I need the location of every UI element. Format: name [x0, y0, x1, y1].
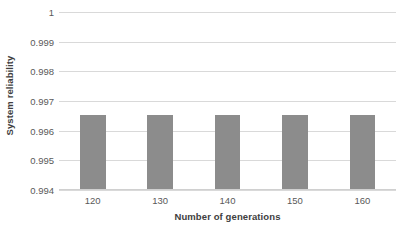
bar-slot [261, 12, 328, 190]
bar-chart: System reliability 10.9990.9980.9970.996… [0, 0, 410, 243]
x-axis-tick-label: 130 [126, 192, 193, 210]
x-axis-title: Number of generations [59, 211, 396, 222]
y-axis-title: System reliability [0, 0, 20, 190]
bar-series [59, 12, 396, 190]
y-axis-tick-labels: 10.9990.9980.9970.9960.9950.994 [20, 0, 57, 190]
y-axis-tick-label: 0.999 [30, 36, 54, 47]
bar-slot [59, 12, 126, 190]
x-axis-tick-label: 140 [194, 192, 261, 210]
bar[interactable] [350, 115, 376, 190]
bar[interactable] [215, 115, 241, 190]
bar[interactable] [80, 115, 106, 190]
y-axis-tick-label: 0.995 [30, 155, 54, 166]
y-axis-title-text: System reliability [5, 55, 16, 135]
x-axis-tick-label: 120 [59, 192, 126, 210]
bar-slot [126, 12, 193, 190]
bar[interactable] [282, 115, 308, 190]
bar[interactable] [147, 115, 173, 190]
bar-slot [329, 12, 396, 190]
bar-slot [194, 12, 261, 190]
y-axis-tick-label: 0.998 [30, 66, 54, 77]
y-axis-tick-label: 1 [49, 7, 54, 18]
y-axis-tick-label: 0.994 [30, 185, 54, 196]
x-axis-tick-label: 150 [261, 192, 328, 210]
gridline [59, 190, 396, 191]
x-axis-line [59, 189, 396, 190]
y-axis-tick-label: 0.997 [30, 96, 54, 107]
y-axis-tick-label: 0.996 [30, 125, 54, 136]
plot-area [59, 12, 396, 190]
x-axis-tick-labels: 120130140150160 [59, 192, 396, 210]
x-axis-tick-label: 160 [329, 192, 396, 210]
